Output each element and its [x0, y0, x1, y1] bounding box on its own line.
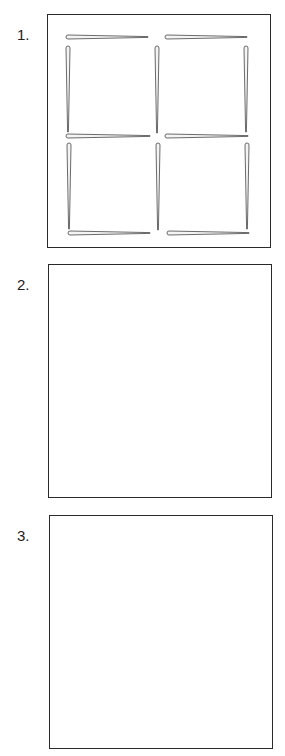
matchstick-vertical	[156, 143, 160, 230]
matchstick-horizontal	[68, 231, 150, 235]
matchstick-vertical	[67, 143, 71, 229]
matchstick-horizontal	[165, 134, 248, 138]
matchstick-vertical	[244, 46, 248, 132]
matchstick-horizontal	[167, 231, 249, 235]
matchstick-vertical	[155, 46, 159, 133]
matchstick-vertical	[245, 143, 249, 229]
matchstick-horizontal	[66, 35, 148, 39]
matchstick-horizontal	[165, 35, 247, 39]
matchstick-vertical	[66, 46, 70, 132]
matchsticks-layer	[0, 0, 285, 756]
matchstick-horizontal	[66, 134, 150, 138]
